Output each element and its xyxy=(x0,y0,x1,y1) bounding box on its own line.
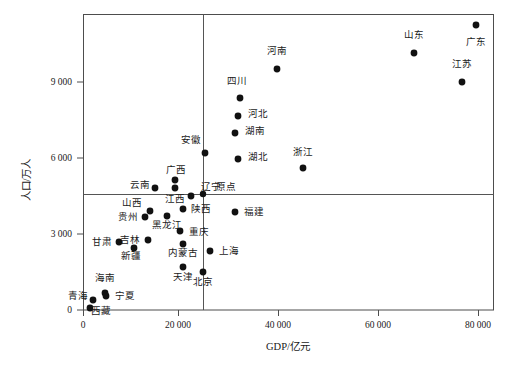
data-point-label: 内蒙古 xyxy=(168,247,198,258)
data-point-marker xyxy=(177,228,184,235)
data-point-group: 山东 xyxy=(404,29,424,56)
y-tick-label: 3 000 xyxy=(51,229,73,239)
data-point-group: 天津 xyxy=(173,264,193,282)
data-point-marker xyxy=(235,156,242,163)
data-point-marker xyxy=(411,50,418,57)
x-tick-label: 80 000 xyxy=(465,320,491,330)
data-point-marker xyxy=(116,239,123,246)
data-point-marker xyxy=(202,150,209,157)
data-point-marker xyxy=(152,185,159,192)
data-point-marker xyxy=(207,248,214,255)
data-point-marker xyxy=(300,165,307,172)
data-point-group: 江苏 xyxy=(452,58,472,85)
data-point-label: 贵州 xyxy=(118,211,138,222)
y-tick-label: 9 000 xyxy=(51,77,73,87)
data-point-marker xyxy=(172,185,179,192)
data-point-group: 新疆 xyxy=(121,245,141,261)
data-point-label: 海南 xyxy=(95,272,115,283)
data-point-group: 安徽 xyxy=(181,134,208,156)
data-point-marker xyxy=(90,297,97,304)
data-point-label: 浙江 xyxy=(293,146,313,157)
data-point-group: 云南 xyxy=(130,179,158,191)
data-point-label: 湖南 xyxy=(245,125,265,136)
data-point-group: 河南 xyxy=(267,45,287,72)
x-axis-ticks xyxy=(84,310,479,316)
data-point-group: 西藏 xyxy=(87,305,111,316)
data-point-marker xyxy=(172,177,179,184)
x-axis-title: GDP/亿元 xyxy=(266,340,311,352)
data-point-marker xyxy=(232,209,239,216)
data-point-group: 广东 xyxy=(466,22,486,47)
data-point-marker xyxy=(237,95,244,102)
data-point-label: 吉林 xyxy=(120,234,140,245)
y-axis-title: 人口/万人 xyxy=(21,158,32,202)
data-point-label: 天津 xyxy=(173,272,193,282)
data-point-group: 四川 xyxy=(227,76,247,101)
data-point-label: 甘肃 xyxy=(92,236,112,247)
data-point-label: 湖北 xyxy=(248,152,268,162)
data-point-label: 广东 xyxy=(466,36,486,47)
data-points-layer: 广东山东河南江苏四川河北湖南安徽湖北浙江广西云南江西辽宁原点陕西山西福建黑龙江贵… xyxy=(68,22,486,316)
data-point-marker xyxy=(145,237,152,244)
y-tick-labels: 0 3 000 6 000 9 000 xyxy=(51,77,73,315)
data-point-marker xyxy=(164,213,171,220)
data-point-group: 黑龙江 xyxy=(152,213,182,230)
data-point-marker xyxy=(473,22,480,29)
data-point-label: 原点 xyxy=(216,182,236,192)
origin-point-marker xyxy=(200,191,206,197)
data-point-group: 北京 xyxy=(193,269,213,287)
y-tick-label: 0 xyxy=(67,305,72,315)
data-point-marker xyxy=(103,293,110,300)
data-point-label: 江苏 xyxy=(452,58,472,69)
data-point-group: 内蒙古 xyxy=(168,241,198,258)
data-point-label: 黑龙江 xyxy=(152,219,182,230)
data-point-group: 上海 xyxy=(207,245,239,256)
data-point-marker xyxy=(200,269,207,276)
x-tick-labels: 0 20 000 40 000 60 000 80 000 xyxy=(81,320,492,330)
data-point-group: 甘肃 xyxy=(92,236,122,247)
plot-area: 0 20 000 40 000 60 000 80 000 0 3 000 6 … xyxy=(0,0,511,369)
data-point-label: 四川 xyxy=(227,76,247,86)
data-point-label: 宁夏 xyxy=(115,290,135,301)
data-point-marker xyxy=(235,113,242,120)
y-axis-ticks xyxy=(77,82,84,310)
data-point-group: 海南 xyxy=(95,272,115,296)
data-point-label: 西藏 xyxy=(91,305,111,316)
data-point-group: 江西 xyxy=(165,185,185,204)
x-tick-label: 0 xyxy=(81,320,86,330)
data-point-label: 山东 xyxy=(404,29,424,40)
y-tick-label: 6 000 xyxy=(51,153,73,163)
data-point-marker xyxy=(180,264,187,271)
data-point-label: 陕西 xyxy=(191,203,211,214)
data-point-group: 陕西 xyxy=(180,203,211,214)
data-point-marker xyxy=(188,193,195,200)
data-point-label: 河南 xyxy=(267,45,287,56)
plot-frame xyxy=(84,15,494,311)
data-point-label: 安徽 xyxy=(181,134,201,145)
data-point-group: 湖北 xyxy=(235,152,268,162)
data-point-group: 浙江 xyxy=(293,146,313,171)
data-point-marker xyxy=(142,214,149,221)
data-point-marker xyxy=(459,79,466,86)
x-tick-label: 20 000 xyxy=(165,320,191,330)
data-point-group: 吉林 xyxy=(120,234,151,245)
data-point-marker xyxy=(274,66,281,73)
data-point-label: 云南 xyxy=(130,179,150,190)
data-point-label: 北京 xyxy=(193,276,213,287)
data-point-group: 河北 xyxy=(235,108,268,119)
data-point-label: 江西 xyxy=(165,194,185,204)
x-tick-label: 60 000 xyxy=(365,320,391,330)
data-point-group: 福建 xyxy=(232,206,264,217)
data-point-marker xyxy=(180,206,187,213)
data-point-label: 新疆 xyxy=(121,250,141,261)
data-point-group: 青海 xyxy=(68,290,96,303)
data-point-label: 重庆 xyxy=(189,226,209,237)
x-tick-label: 40 000 xyxy=(265,320,291,330)
data-point-marker xyxy=(147,208,154,215)
data-point-marker xyxy=(232,130,239,137)
data-point-group: 贵州 xyxy=(118,211,148,222)
data-point-label: 青海 xyxy=(68,290,88,301)
data-point-group: 广西 xyxy=(166,164,186,183)
data-point-label: 上海 xyxy=(219,245,239,256)
data-point-marker xyxy=(180,241,187,248)
